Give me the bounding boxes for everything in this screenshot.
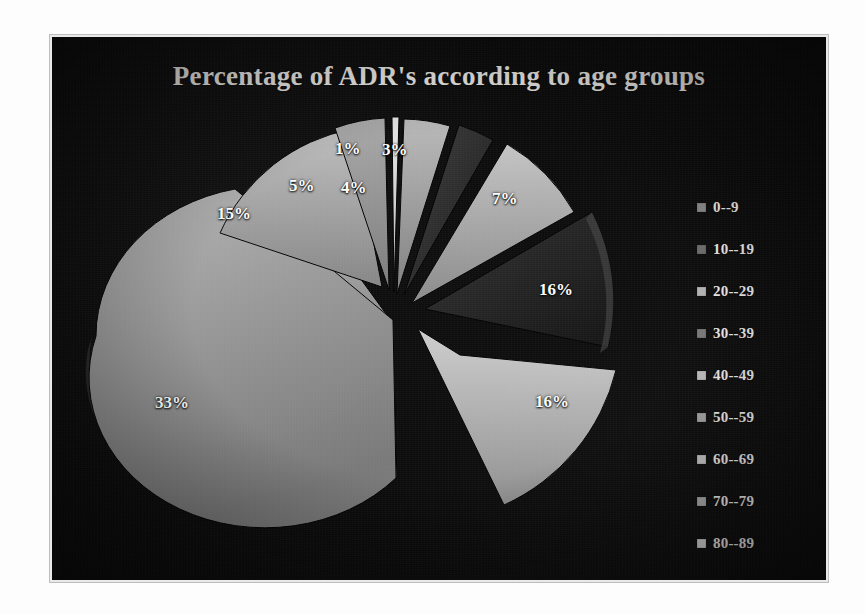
- chart-plate: Percentage of ADR's according to age gro…: [52, 37, 826, 580]
- pie-label-60-69: 15%: [217, 204, 251, 224]
- legend-swatch-icon: [697, 329, 706, 338]
- pie-label-70-79: 5%: [289, 176, 315, 196]
- legend-swatch-icon: [697, 455, 706, 464]
- legend-swatch-icon: [697, 287, 706, 296]
- legend-item-80-89[interactable]: 80--89: [697, 533, 817, 553]
- legend-swatch-icon: [697, 413, 706, 422]
- legend-label: 20--29: [713, 283, 754, 300]
- pie-label-30-39: 16%: [539, 280, 573, 300]
- legend-label: 60--69: [713, 451, 754, 468]
- pie-slice-40-49[interactable]: [418, 329, 616, 505]
- legend-item-30-39[interactable]: 30--39: [697, 323, 817, 343]
- legend-item-10-19[interactable]: 10--19: [697, 239, 817, 259]
- legend-label: 80--89: [713, 535, 754, 552]
- page-root: Percentage of ADR's according to age gro…: [0, 0, 865, 615]
- legend-item-50-59[interactable]: 50--59: [697, 407, 817, 427]
- pie-label-0-9: 4%: [341, 178, 367, 198]
- legend-item-0-9[interactable]: 0--9: [697, 197, 817, 217]
- pie-label-40-49: 16%: [535, 392, 569, 412]
- pie-label-50-59: 33%: [155, 393, 189, 413]
- legend-label: 30--39: [713, 325, 754, 342]
- pie-label-10-19: 3%: [382, 140, 408, 160]
- legend-item-60-69[interactable]: 60--69: [697, 449, 817, 469]
- legend-swatch-icon: [697, 497, 706, 506]
- pie-label-80-89: 1%: [335, 139, 361, 159]
- pie-label-20-29: 7%: [492, 189, 518, 209]
- legend-label: 70--79: [713, 493, 754, 510]
- legend-label: 40--49: [713, 367, 754, 384]
- legend-swatch-icon: [697, 539, 706, 548]
- legend-item-40-49[interactable]: 40--49: [697, 365, 817, 385]
- legend-swatch-icon: [697, 245, 706, 254]
- legend: 0--9 10--19 20--29 30--39 40--49 50--59: [697, 197, 817, 575]
- legend-label: 50--59: [713, 409, 754, 426]
- legend-label: 10--19: [713, 241, 754, 258]
- legend-item-70-79[interactable]: 70--79: [697, 491, 817, 511]
- legend-swatch-icon: [697, 203, 706, 212]
- legend-label: 0--9: [713, 199, 739, 216]
- legend-swatch-icon: [697, 371, 706, 380]
- legend-item-20-29[interactable]: 20--29: [697, 281, 817, 301]
